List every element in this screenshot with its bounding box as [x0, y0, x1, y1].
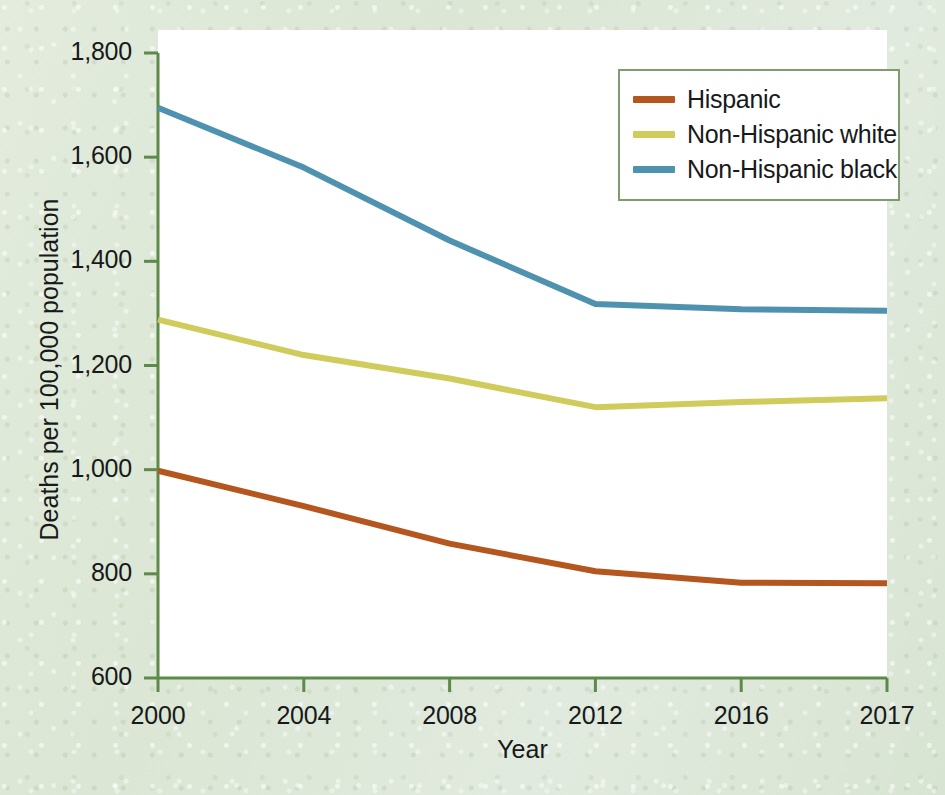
legend-color-swatch: [633, 166, 675, 173]
legend-item: Hispanic: [633, 82, 888, 117]
y-axis-tick-label: 1,600: [0, 141, 132, 170]
chart-legend: HispanicNon-Hispanic whiteNon-Hispanic b…: [618, 69, 900, 201]
y-axis-tick-label: 1,000: [0, 454, 132, 483]
legend-color-swatch: [633, 131, 675, 138]
y-axis-ticks: [144, 53, 158, 678]
legend-item-label: Non-Hispanic black: [687, 155, 897, 184]
legend-item-label: Hispanic: [687, 85, 780, 114]
legend-item: Non-Hispanic black: [633, 152, 888, 187]
x-axis-tick-label: 2000: [98, 701, 218, 730]
x-axis-tick-label: 2016: [681, 701, 801, 730]
x-axis-tick-label: 2012: [535, 701, 655, 730]
legend-color-swatch: [633, 96, 675, 103]
x-axis-ticks: [158, 678, 887, 692]
x-axis-title: Year: [158, 735, 887, 764]
y-axis-tick-label: 1,200: [0, 350, 132, 379]
y-axis-tick-label: 600: [0, 662, 132, 691]
y-axis-tick-label: 1,400: [0, 245, 132, 274]
y-axis-tick-label: 800: [0, 558, 132, 587]
chart-figure: 6008001,0001,2001,4001,6001,800 20002004…: [0, 0, 945, 795]
y-axis-title: Deaths per 100,000 population: [35, 190, 64, 550]
legend-item-label: Non-Hispanic white: [687, 120, 897, 149]
x-axis-tick-label: 2008: [390, 701, 510, 730]
x-axis-tick-label: 2017: [827, 701, 945, 730]
legend-item: Non-Hispanic white: [633, 117, 888, 152]
x-axis-tick-label: 2004: [244, 701, 364, 730]
y-axis-tick-label: 1,800: [0, 37, 132, 66]
